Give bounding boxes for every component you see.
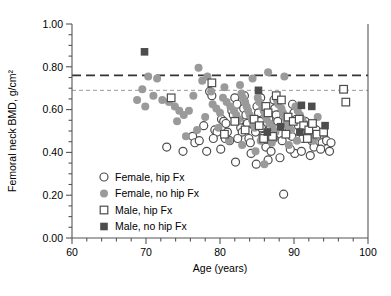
y-tick-label: 0.80 <box>43 61 64 73</box>
data-point[interactable] <box>193 126 201 134</box>
x-tick-label: 60 <box>66 246 78 258</box>
data-point[interactable] <box>267 147 275 155</box>
scatter-plot: 0.000.200.400.600.801.0060708090100Age (… <box>0 0 391 296</box>
data-point[interactable] <box>298 102 306 110</box>
data-point[interactable] <box>264 128 272 136</box>
legend-open-square-icon <box>100 206 108 214</box>
data-point[interactable] <box>296 128 304 136</box>
data-point[interactable] <box>340 85 348 93</box>
data-point[interactable] <box>241 126 249 134</box>
x-tick-label: 100 <box>359 246 377 258</box>
data-point[interactable] <box>231 118 239 126</box>
legend-filled-square-icon <box>100 223 108 231</box>
data-point[interactable] <box>252 160 260 168</box>
data-point[interactable] <box>297 147 305 155</box>
data-point[interactable] <box>208 79 216 87</box>
figure-container: 0.000.200.400.600.801.0060708090100Age (… <box>0 0 391 296</box>
data-point[interactable] <box>236 81 244 89</box>
data-point[interactable] <box>203 147 211 155</box>
data-point[interactable] <box>255 122 263 130</box>
data-point[interactable] <box>249 75 257 83</box>
data-point[interactable] <box>238 141 246 149</box>
data-point[interactable] <box>153 75 161 83</box>
data-point[interactable] <box>189 92 197 100</box>
y-tick-label: 0.00 <box>43 232 64 244</box>
y-tick-label: 1.00 <box>43 18 64 30</box>
data-point[interactable] <box>222 120 230 128</box>
data-point[interactable] <box>280 190 288 198</box>
data-point[interactable] <box>200 122 208 130</box>
data-point[interactable] <box>277 123 285 131</box>
data-point[interactable] <box>276 154 284 162</box>
y-tick-label: 0.60 <box>43 103 64 115</box>
data-point[interactable] <box>179 147 187 155</box>
data-point[interactable] <box>133 96 141 104</box>
data-point[interactable] <box>209 134 217 142</box>
data-point[interactable] <box>220 83 228 91</box>
data-point[interactable] <box>163 143 171 151</box>
data-point[interactable] <box>280 72 288 80</box>
data-point[interactable] <box>278 96 286 104</box>
data-point[interactable] <box>138 85 146 93</box>
data-point[interactable] <box>326 147 334 155</box>
data-point[interactable] <box>195 64 203 72</box>
data-point[interactable] <box>293 137 301 145</box>
legend-label: Male, hip Fx <box>115 204 173 216</box>
x-tick-label: 90 <box>288 246 300 258</box>
data-point[interactable] <box>255 87 263 95</box>
data-point[interactable] <box>252 147 260 155</box>
data-point[interactable] <box>327 139 335 147</box>
data-point[interactable] <box>141 102 149 110</box>
data-point[interactable] <box>141 48 149 56</box>
data-point[interactable] <box>185 107 193 115</box>
data-point[interactable] <box>285 141 293 149</box>
legend-item[interactable]: Male, hip Fx <box>100 204 173 216</box>
x-tick-label: 80 <box>214 246 226 258</box>
data-point[interactable] <box>321 122 329 130</box>
data-point[interactable] <box>201 113 209 121</box>
data-point[interactable] <box>217 145 225 153</box>
data-point[interactable] <box>309 120 317 128</box>
data-point[interactable] <box>264 109 272 117</box>
x-tick-label: 70 <box>140 246 152 258</box>
data-point[interactable] <box>232 158 240 166</box>
y-axis-title: Femoral neck BMD, g/cm² <box>6 70 18 192</box>
data-point[interactable] <box>282 130 290 138</box>
data-point[interactable] <box>221 130 229 138</box>
y-tick-label: 0.40 <box>43 146 64 158</box>
data-point[interactable] <box>246 139 254 147</box>
legend-open-circle-icon <box>100 173 108 181</box>
legend-filled-circle-icon <box>100 190 108 198</box>
data-point[interactable] <box>306 152 314 160</box>
data-point[interactable] <box>260 160 268 168</box>
data-point[interactable] <box>216 109 224 117</box>
data-point[interactable] <box>264 68 272 76</box>
legend-label: Male, no hip Fx <box>115 220 188 232</box>
data-point[interactable] <box>167 94 175 102</box>
data-point[interactable] <box>195 137 203 145</box>
data-point[interactable] <box>317 145 325 153</box>
data-point[interactable] <box>308 103 316 111</box>
legend-item[interactable]: Female, no hip Fx <box>100 187 200 199</box>
data-point[interactable] <box>144 72 152 80</box>
x-axis-title: Age (years) <box>193 262 247 274</box>
data-point[interactable] <box>149 92 157 100</box>
legend-item[interactable]: Male, no hip Fx <box>100 220 187 232</box>
data-point[interactable] <box>342 98 350 106</box>
legend-item[interactable]: Female, hip Fx <box>100 171 185 183</box>
legend-label: Female, hip Fx <box>115 171 185 183</box>
data-point[interactable] <box>173 117 181 125</box>
y-tick-label: 0.20 <box>43 189 64 201</box>
data-point[interactable] <box>304 135 312 143</box>
data-point[interactable] <box>207 87 215 95</box>
legend-label: Female, no hip Fx <box>115 187 200 199</box>
data-point[interactable] <box>182 132 190 140</box>
